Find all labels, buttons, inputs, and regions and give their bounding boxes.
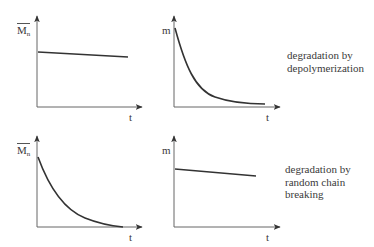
mn-base: M xyxy=(17,24,27,36)
curve-linear-decrease xyxy=(175,169,256,176)
caption-line: random chain xyxy=(285,176,351,189)
overbar xyxy=(17,143,30,144)
y-axis-label-m-bottom: m xyxy=(162,145,171,156)
caption-depolymerization: degradation by depolymerization xyxy=(287,49,364,74)
panel-top-right xyxy=(174,16,280,107)
caption-line: breaking xyxy=(285,188,351,201)
x-axis-label-t-bottom-left: t xyxy=(129,232,132,243)
y-axis-label-mn-top: Mn xyxy=(17,25,30,40)
mn-sub: n xyxy=(27,30,31,38)
caption-line: depolymerization xyxy=(287,62,364,75)
y-axis-label-m-top: m xyxy=(162,25,171,36)
curve-linear-decrease xyxy=(38,52,128,57)
mn-base: M xyxy=(17,144,27,156)
curve-exponential-decay xyxy=(38,157,123,227)
x-axis-label-t-top-right: t xyxy=(266,112,269,123)
overbar xyxy=(17,23,30,24)
mn-sub: n xyxy=(27,150,31,158)
panel-top-left xyxy=(37,16,142,107)
caption-line: degradation by xyxy=(287,49,364,62)
x-axis-label-t-bottom-right: t xyxy=(266,232,269,243)
y-axis-label-mn-bottom: Mn xyxy=(17,145,30,160)
diagram-canvas xyxy=(0,0,374,247)
panel-bottom-right xyxy=(174,136,280,227)
curve-exponential-decay xyxy=(175,28,265,104)
panel-bottom-left xyxy=(37,136,142,227)
caption-line: degradation by xyxy=(285,163,351,176)
x-axis-label-t-top-left: t xyxy=(129,112,132,123)
caption-random-chain-breaking: degradation by random chain breaking xyxy=(285,163,351,201)
